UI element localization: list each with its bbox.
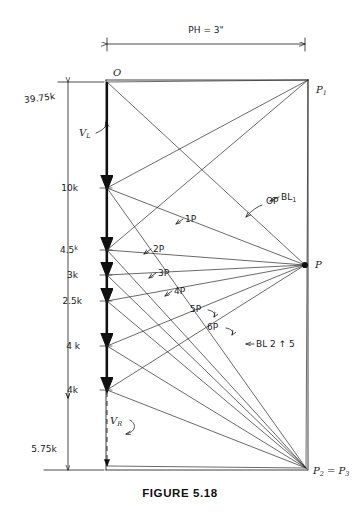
ray-O-P xyxy=(107,82,305,265)
load-label-2p5k: 2.5k xyxy=(62,296,82,306)
annotation-bl25: BL 2 ↑ 5 xyxy=(256,339,295,349)
ray-5-P23 xyxy=(107,346,306,468)
label-point-P1: P1 xyxy=(315,84,327,97)
figure-5-18-root: PH = 3" 39.75k VL 5.75k xyxy=(0,0,360,519)
ray-label-OP-leader xyxy=(246,205,262,217)
ray-name-labels-group: OP 1P 2P 3P 4P 5P 6P xyxy=(144,196,279,335)
left-reaction-vr-group: 5.75k VR xyxy=(31,398,134,470)
ray-label-5P: 5P xyxy=(190,304,202,314)
point-labels-group: O P1 P P2 = P3 xyxy=(113,67,349,478)
label-point-O: O xyxy=(113,67,121,78)
rays-to-P23 xyxy=(107,80,308,468)
ray-2-P1 xyxy=(107,80,308,250)
load-label-4k-a: 4 k xyxy=(66,341,81,351)
load-label-10k: 10k xyxy=(61,183,78,193)
vl-label: VL xyxy=(79,127,91,140)
ray-3-P xyxy=(107,265,305,275)
load-label-3k: 3k xyxy=(67,270,79,280)
vl-total-label: 39.75k xyxy=(24,91,57,105)
ray-base-P23 xyxy=(107,466,306,468)
ray-label-1P: 1P xyxy=(185,214,197,224)
ray-1-P1 xyxy=(107,80,308,188)
bl-annotations-group: BL1 BL 2 ↑ 5 xyxy=(246,192,296,349)
ray-label-4P-leader xyxy=(165,291,172,296)
vr-leader-arrow xyxy=(126,420,135,434)
ray-6-P23 xyxy=(107,390,306,468)
load-label-4k-b: 4k xyxy=(67,385,79,395)
vr-total-label: 5.75k xyxy=(31,444,57,454)
force-polygon-diagram: PH = 3" 39.75k VL 5.75k xyxy=(0,0,360,519)
ray-label-1P-leader xyxy=(176,219,183,224)
label-point-P23: P2 = P3 xyxy=(312,465,349,478)
label-point-P: P xyxy=(314,259,322,270)
left-reaction-vl-group: 39.75k VL xyxy=(24,82,107,398)
ray-label-4P: 4P xyxy=(174,286,186,296)
vl-leader-arrow xyxy=(96,122,106,133)
ray-label-6P: 6P xyxy=(207,322,219,332)
ray-label-3P-leader xyxy=(149,273,156,278)
ray-5-P xyxy=(107,265,305,346)
ray-2-P xyxy=(107,250,305,265)
frame-group xyxy=(106,80,308,470)
dimension-label-ph: PH = 3" xyxy=(188,25,223,35)
ray-label-3P: 3P xyxy=(158,268,170,278)
figure-caption: FIGURE 5.18 xyxy=(0,487,360,499)
annotation-bl1: BL1 xyxy=(281,192,296,204)
ray-label-6P-leader xyxy=(226,328,233,335)
rays-to-P1 xyxy=(107,80,308,250)
load-label-4p5k: 4.5k xyxy=(60,244,78,255)
ray-label-2P: 2P xyxy=(153,244,165,254)
top-dimension-group: PH = 3" xyxy=(107,25,305,51)
load-labels-group: 10k 4.5k 3k 2.5k 4 k 4k xyxy=(60,183,83,395)
vr-label: VR xyxy=(110,415,122,428)
ray-label-5P-leader xyxy=(208,310,215,317)
